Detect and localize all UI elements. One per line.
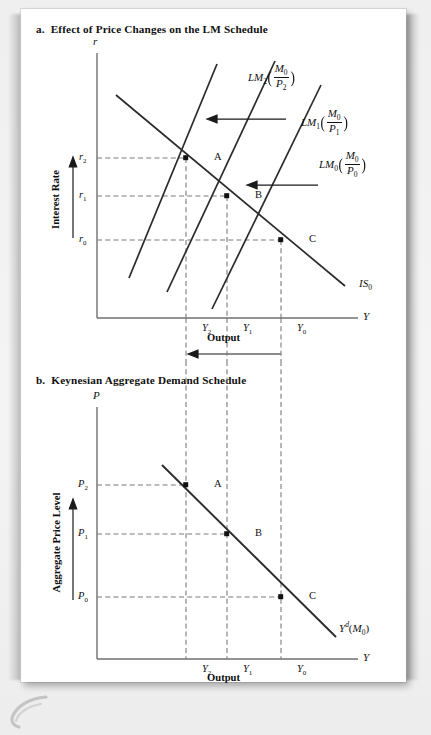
panel-b-tick-Y1: Y1 xyxy=(243,663,252,676)
page-shadow-left xyxy=(8,14,21,680)
point-marker-b-c xyxy=(278,594,283,599)
figure-page: a.Effect of Price Changes on the LM Sche… xyxy=(0,0,431,735)
panel-b-y-caption-arrow xyxy=(69,499,76,600)
panel-b-guidelines-horizontal xyxy=(97,485,281,597)
panel-b-tick-P1: P1 xyxy=(78,527,88,540)
page-sheet: a.Effect of Price Changes on the LM Sche… xyxy=(21,9,406,682)
page-corner-decoration xyxy=(8,694,50,730)
panel-b-point-label-c: C xyxy=(309,590,316,601)
y-caption-b-arrow-head xyxy=(69,499,76,509)
point-marker-b-b xyxy=(224,531,229,536)
panel-b-point-label-b: B xyxy=(255,527,262,538)
panel-b-x-axis-symbol: Y xyxy=(363,651,369,663)
panel-b-tick-P0: P0 xyxy=(78,590,88,603)
panel-b-guidelines-vertical xyxy=(186,361,281,659)
panel-b-y-axis-caption: Aggregate Price Level xyxy=(51,472,62,614)
yd-curve-label: Yd(M0) xyxy=(339,620,369,637)
panel-b-chart xyxy=(21,9,406,682)
point-marker-b-a xyxy=(183,482,188,487)
panel-b-tick-P2: P2 xyxy=(78,478,88,491)
page-shadow-right xyxy=(406,14,420,680)
panel-b-x-axis-caption: Output xyxy=(207,672,240,683)
panel-b-tick-Y0: Y0 xyxy=(297,663,306,676)
panel-b-tick-Y2: Y2 xyxy=(202,663,211,676)
panel-b-point-label-a: A xyxy=(214,478,222,489)
yd-curve xyxy=(162,465,336,637)
panel-b-y-axis-symbol: P xyxy=(93,389,100,401)
